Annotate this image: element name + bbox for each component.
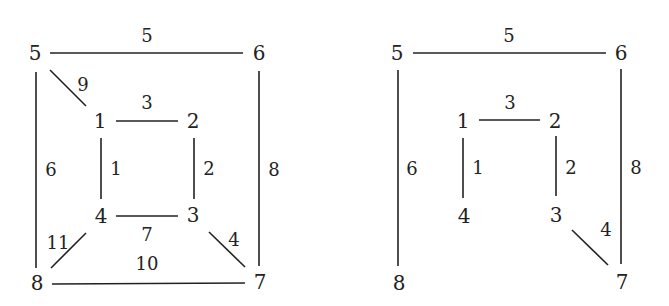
edge-weight-label: 3 [504,92,515,113]
node-7: 7 [616,270,629,294]
edge-weight-label: 8 [630,157,641,178]
edge-weight-label: 6 [406,158,417,179]
node-7: 7 [254,270,267,294]
edge-weight-label: 5 [503,25,514,46]
edge-weight-label: 5 [141,25,152,46]
edge-weight-label: 2 [203,158,214,179]
spanning-tree: 536128456124387 [391,25,642,295]
node-8: 8 [393,271,406,295]
node-1: 1 [457,109,470,133]
edge-weight-label: 1 [472,157,483,178]
diagram-canvas: 593612871141056124387 536128456124387 [0,0,669,306]
node-3: 3 [187,203,200,227]
edge-weight-label: 7 [141,224,152,245]
node-4: 4 [458,204,471,228]
edge-weight-label: 6 [45,159,56,180]
node-6: 6 [615,41,628,65]
edge-weight-label: 4 [228,229,239,250]
edge-weight-label: 4 [600,219,611,240]
edge-weight-label: 9 [77,74,88,95]
node-2: 2 [187,109,200,133]
node-6: 6 [253,41,266,65]
edge-weight-label: 2 [565,157,576,178]
node-3: 3 [550,203,563,227]
edge-8-7 [52,283,245,284]
original-graph: 593612871141056124387 [29,25,280,295]
node-8: 8 [31,271,44,295]
edge-weight-label: 11 [47,232,70,253]
edge-weight-label: 8 [268,159,279,180]
node-1: 1 [94,109,107,133]
node-5: 5 [29,41,42,65]
edge-weight-label: 1 [110,158,121,179]
node-5: 5 [391,41,404,65]
edge-weight-label: 3 [141,92,152,113]
node-4: 4 [95,204,108,228]
edge-weight-label: 10 [136,253,159,274]
node-2: 2 [549,109,562,133]
